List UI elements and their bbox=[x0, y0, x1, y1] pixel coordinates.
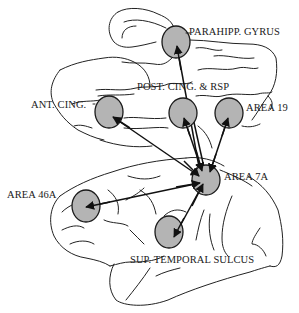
diagram-canvas bbox=[0, 0, 299, 313]
region-area-19[interactable] bbox=[215, 98, 243, 128]
label-post-cing-rsp: POST. CING. & RSP bbox=[137, 82, 229, 93]
connections bbox=[86, 46, 228, 237]
label-ant-cing: ANT. CING. bbox=[31, 100, 86, 111]
brain-connectivity-diagram: PARAHIPP. GYRUS ANT. CING. POST. CING. &… bbox=[0, 0, 299, 313]
label-area-19: AREA 19 bbox=[246, 103, 288, 114]
label-sup-temporal-sulcus: SUP. TEMPORAL SULCUS bbox=[130, 255, 254, 266]
region-post-cing-rsp[interactable] bbox=[169, 98, 197, 128]
label-area-7a: AREA 7A bbox=[224, 172, 268, 183]
region-parahipp-gyrus[interactable] bbox=[162, 26, 190, 58]
label-area-46a: AREA 46A bbox=[7, 190, 57, 201]
arrowheads-overlay bbox=[86, 46, 228, 237]
region-area-46a[interactable] bbox=[72, 190, 100, 222]
region-area-7a[interactable] bbox=[192, 165, 220, 195]
region-sup-temporal-sulcus[interactable] bbox=[155, 216, 183, 248]
label-parahipp-gyrus: PARAHIPP. GYRUS bbox=[189, 27, 280, 38]
region-ant-cing[interactable] bbox=[95, 96, 123, 128]
